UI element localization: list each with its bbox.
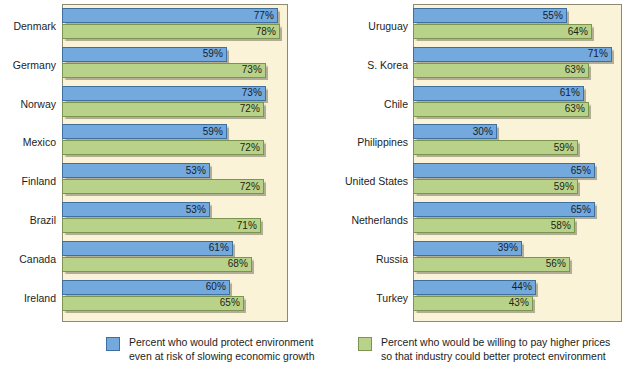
bar-value-label: 68% <box>228 259 251 269</box>
category-label-denmark: Denmark <box>0 21 56 32</box>
bar-value-label: 61% <box>209 243 232 253</box>
bar-right-netherlands-blue: 65% <box>413 202 595 217</box>
bar-right-philippines-blue: 30% <box>413 124 497 139</box>
bar-fill-green: 56% <box>413 257 570 272</box>
bar-fill-blue: 73% <box>62 86 266 101</box>
bar-right-s-korea-green: 63% <box>413 63 589 78</box>
bar-right-turkey-green: 43% <box>413 296 533 311</box>
legend-label-blue: Percent who would protect environment ev… <box>129 336 315 363</box>
bar-fill-green: 63% <box>413 63 589 78</box>
bar-fill-blue: 71% <box>413 47 612 62</box>
bar-value-label: 60% <box>206 282 229 292</box>
bar-value-label: 39% <box>498 243 521 253</box>
bar-value-label: 71% <box>237 221 260 231</box>
bar-right-s-korea-blue: 71% <box>413 47 612 62</box>
bar-value-label: 59% <box>554 143 577 153</box>
bar-fill-green: 59% <box>413 140 578 155</box>
legend-label-green: Percent who would be willing to pay high… <box>381 336 610 363</box>
bar-left-canada-blue: 61% <box>62 241 233 256</box>
bar-right-united-states-blue: 65% <box>413 163 595 178</box>
category-label-uruguay: Uruguay <box>300 21 408 32</box>
bar-left-canada-green: 68% <box>62 257 252 272</box>
bar-left-denmark-blue: 77% <box>62 8 278 23</box>
bar-fill-blue: 39% <box>413 241 522 256</box>
bar-value-label: 61% <box>560 88 583 98</box>
legend-swatch-blue-icon <box>106 337 120 351</box>
bar-value-label: 63% <box>565 65 588 75</box>
bar-value-label: 44% <box>512 282 535 292</box>
category-label-canada: Canada <box>0 254 56 265</box>
bar-left-germany-blue: 59% <box>62 47 227 62</box>
bar-value-label: 59% <box>203 49 226 59</box>
bar-left-brazil-blue: 53% <box>62 202 210 217</box>
bar-left-mexico-blue: 59% <box>62 124 227 139</box>
bar-value-label: 72% <box>240 182 263 192</box>
bar-left-mexico-green: 72% <box>62 140 264 155</box>
bar-value-label: 55% <box>543 11 566 21</box>
bar-fill-blue: 59% <box>62 124 227 139</box>
bar-value-label: 58% <box>551 221 574 231</box>
bar-fill-blue: 65% <box>413 202 595 217</box>
bar-value-label: 78% <box>256 27 279 37</box>
bar-right-united-states-green: 59% <box>413 179 578 194</box>
bar-value-label: 63% <box>565 104 588 114</box>
bar-value-label: 59% <box>203 127 226 137</box>
category-label-turkey: Turkey <box>300 293 408 304</box>
bar-fill-blue: 53% <box>62 163 210 178</box>
bar-fill-blue: 53% <box>62 202 210 217</box>
bar-value-label: 53% <box>186 205 209 215</box>
bar-fill-blue: 44% <box>413 280 536 295</box>
bar-value-label: 65% <box>571 205 594 215</box>
bar-left-finland-blue: 53% <box>62 163 210 178</box>
bar-value-label: 65% <box>571 166 594 176</box>
bar-right-russia-blue: 39% <box>413 241 522 256</box>
bar-value-label: 56% <box>546 259 569 269</box>
bar-fill-green: 73% <box>62 63 266 78</box>
bar-fill-blue: 61% <box>62 241 233 256</box>
bar-fill-green: 72% <box>62 179 264 194</box>
bar-fill-green: 59% <box>413 179 578 194</box>
bar-fill-blue: 65% <box>413 163 595 178</box>
bar-fill-green: 71% <box>62 218 261 233</box>
bar-value-label: 53% <box>186 166 209 176</box>
bar-left-brazil-green: 71% <box>62 218 261 233</box>
grouped-bar-chart: 77%78%59%73%73%72%59%72%53%72%53%71%61%6… <box>0 0 631 376</box>
bar-left-ireland-green: 65% <box>62 296 244 311</box>
bar-right-chile-green: 63% <box>413 102 589 117</box>
bar-value-label: 43% <box>509 298 532 308</box>
legend-item-protect-environment: Percent who would protect environment ev… <box>106 336 315 363</box>
bar-right-netherlands-green: 58% <box>413 218 575 233</box>
bar-value-label: 73% <box>242 88 265 98</box>
bar-value-label: 73% <box>242 65 265 75</box>
bar-left-finland-green: 72% <box>62 179 264 194</box>
bar-right-russia-green: 56% <box>413 257 570 272</box>
category-label-mexico: Mexico <box>0 137 56 148</box>
category-label-philippines: Philippines <box>300 137 408 148</box>
bar-value-label: 65% <box>220 298 243 308</box>
bar-fill-blue: 61% <box>413 86 584 101</box>
bar-value-label: 59% <box>554 182 577 192</box>
chart-legend: Percent who would protect environment ev… <box>0 336 631 376</box>
bar-value-label: 71% <box>588 49 611 59</box>
legend-swatch-green-icon <box>358 337 372 351</box>
category-label-chile: Chile <box>300 99 408 110</box>
bar-fill-green: 72% <box>62 140 264 155</box>
bar-right-uruguay-green: 64% <box>413 24 592 39</box>
category-label-ireland: Ireland <box>0 293 56 304</box>
bar-left-denmark-green: 78% <box>62 24 280 39</box>
bar-left-germany-green: 73% <box>62 63 266 78</box>
bar-left-norway-green: 72% <box>62 102 264 117</box>
bar-value-label: 72% <box>240 104 263 114</box>
category-label-s-korea: S. Korea <box>300 60 408 71</box>
category-label-united-states: United States <box>300 176 408 187</box>
bar-right-chile-blue: 61% <box>413 86 584 101</box>
category-label-brazil: Brazil <box>0 215 56 226</box>
bar-fill-green: 65% <box>62 296 244 311</box>
bar-fill-blue: 59% <box>62 47 227 62</box>
bar-fill-blue: 30% <box>413 124 497 139</box>
bar-fill-green: 78% <box>62 24 280 39</box>
bar-left-ireland-blue: 60% <box>62 280 230 295</box>
bar-fill-green: 72% <box>62 102 264 117</box>
category-label-russia: Russia <box>300 254 408 265</box>
bar-fill-green: 63% <box>413 102 589 117</box>
